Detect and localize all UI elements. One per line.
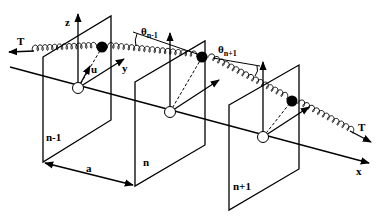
spacing-label: a: [86, 162, 92, 174]
mass-n-1: [97, 42, 108, 53]
angle-next-label: θn+1: [218, 43, 237, 58]
spring-coil: [298, 100, 354, 133]
y-axis-label: y: [122, 62, 128, 74]
angle-prev-label: θn-1: [141, 25, 158, 40]
y-axis-n: [170, 80, 219, 112]
displacement-label: u: [91, 63, 97, 75]
tension-right-label: T: [358, 121, 366, 133]
equilibrium-point-n: [165, 107, 176, 118]
spring-coil: [32, 42, 96, 51]
plane-label-n: n: [143, 156, 149, 168]
angle-arc-next: [255, 66, 258, 76]
dashed-projection: [78, 49, 101, 88]
plane-label-n-plus-1: n+1: [233, 180, 251, 192]
tension-left-label: T: [17, 35, 25, 47]
mass-n-plus-1: [287, 96, 298, 107]
equilibrium-point-n-1: [73, 83, 84, 94]
mass-n: [197, 52, 208, 63]
y-axis: [78, 59, 124, 88]
tension-left-arrow: [9, 51, 34, 52]
dashed-projection: [263, 103, 290, 137]
y-axis-n-plus-1: [263, 107, 309, 137]
dashed-projection: [170, 59, 201, 112]
spring-coil: [107, 43, 196, 57]
spring-mass-chain-diagram: T T z y x u θn-1 θn+1 a n-1 n n+1: [0, 0, 383, 224]
spring-coil: [208, 54, 288, 99]
angle-arc-prev: [135, 34, 137, 46]
x-axis-label: x: [356, 165, 362, 177]
z-axis-label: z: [65, 16, 70, 28]
plane-label-n-1: n-1: [46, 131, 61, 143]
equilibrium-point-n-plus-1: [258, 132, 269, 143]
